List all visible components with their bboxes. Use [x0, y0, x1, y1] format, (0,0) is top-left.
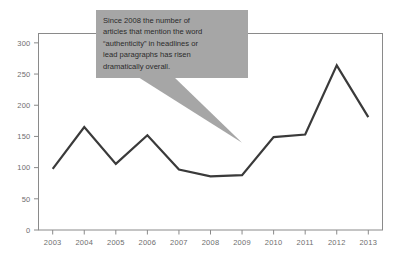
y-axis-tick-label: 300 [17, 39, 30, 48]
chart-canvas: 050100150200250300 200320042005200620072… [0, 0, 398, 264]
x-axis: 2003200420052006200720082009201020112012… [44, 230, 377, 247]
y-axis: 050100150200250300 [17, 39, 38, 235]
callout-text-line: “authenticity” in headlines or [103, 39, 198, 48]
y-axis-tick-label: 200 [17, 101, 30, 110]
callout-text-line: dramatically overall. [103, 62, 170, 71]
x-axis-tick-label: 2005 [107, 238, 125, 247]
x-axis-tick-label: 2009 [233, 238, 251, 247]
y-axis-tick-label: 250 [17, 70, 30, 79]
x-axis-tick-label: 2013 [359, 238, 377, 247]
y-axis-tick-label: 50 [22, 195, 31, 204]
x-axis-tick-label: 2008 [202, 238, 220, 247]
callout-text-line: lead paragraphs has risen [103, 50, 191, 59]
x-axis-tick-label: 2007 [170, 238, 188, 247]
x-axis-tick-label: 2003 [44, 238, 62, 247]
x-axis-tick-label: 2012 [328, 238, 346, 247]
y-axis-tick-label: 0 [26, 226, 30, 235]
line-chart: 050100150200250300 200320042005200620072… [0, 0, 398, 264]
x-axis-tick-label: 2010 [265, 238, 283, 247]
x-axis-tick-label: 2011 [297, 238, 314, 247]
callout-text-line: Since 2008 the number of [103, 16, 191, 25]
y-axis-tick-label: 100 [17, 163, 30, 172]
x-axis-tick-label: 2004 [75, 238, 93, 247]
x-axis-tick-label: 2006 [139, 238, 157, 247]
y-axis-tick-label: 150 [17, 132, 30, 141]
callout-text-line: articles that mention the word [103, 27, 202, 36]
